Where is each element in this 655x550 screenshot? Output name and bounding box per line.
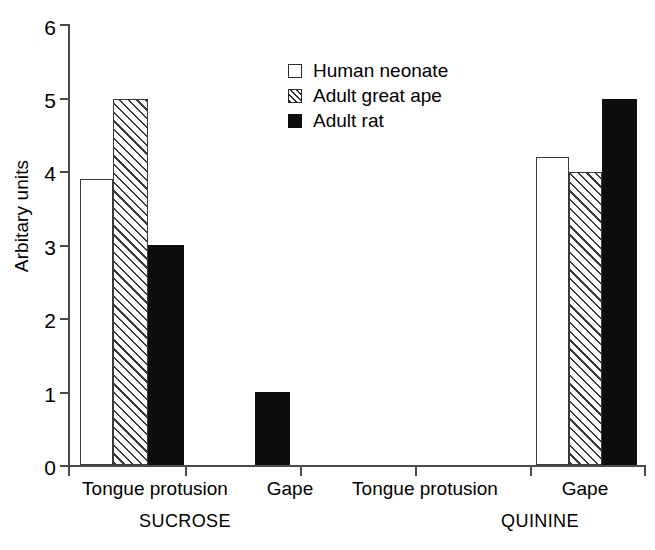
white-square-icon: [288, 64, 302, 78]
y-tick-label-3: 3: [30, 237, 56, 258]
legend-item-adult-great-ape: Adult great ape: [288, 83, 448, 108]
y-tick-label-0: 0: [30, 457, 56, 478]
x-tick-mark-4: [530, 467, 532, 476]
x-tick-mark-0: [68, 467, 70, 476]
y-tick-label-2: 2: [30, 310, 56, 331]
bar-sucrose-tongue-adult-rat: [148, 245, 184, 465]
legend-item-adult-rat: Adult rat: [288, 108, 448, 133]
y-tick-label-1: 1: [30, 384, 56, 405]
x-category-label-sucrose-tongue: Tongue protusion: [60, 478, 250, 500]
legend-label-adult-great-ape: Adult great ape: [313, 86, 442, 105]
hatched-square-icon: [288, 89, 302, 103]
black-square-icon: [288, 114, 302, 128]
bar-sucrose-gape-adult-rat: [255, 392, 290, 465]
legend-item-human-neonate: Human neonate: [288, 58, 448, 83]
bar-quinine-gape-human-neonate: [536, 157, 569, 465]
y-tick-label-4: 4: [30, 163, 56, 184]
y-axis-title: Arbitary units: [11, 106, 33, 326]
y-tick-label-5: 5: [30, 90, 56, 111]
x-tick-mark-5: [644, 467, 646, 476]
bar-quinine-gape-adult-great-ape: [569, 172, 602, 465]
bar-sucrose-tongue-human-neonate: [80, 179, 113, 465]
chart-legend: Human neonate Adult great ape Adult rat: [288, 58, 448, 133]
legend-label-human-neonate: Human neonate: [313, 61, 448, 80]
bar-chart: Arbitary units 6 5 4 3 2 1 0 Tongue prot…: [0, 0, 655, 550]
x-category-label-quinine-tongue: Tongue protusion: [330, 478, 520, 500]
x-group-label-quinine: QUININE: [455, 511, 625, 532]
x-tick-mark-2: [300, 467, 302, 476]
legend-label-adult-rat: Adult rat: [313, 111, 384, 130]
x-axis-line: [68, 465, 646, 467]
y-tick-label-6: 6: [30, 17, 56, 38]
x-category-label-quinine-gape: Gape: [530, 478, 640, 500]
x-category-label-sucrose-gape: Gape: [235, 478, 345, 500]
x-group-label-sucrose: SUCROSE: [100, 511, 270, 532]
x-tick-mark-1: [185, 467, 187, 476]
bar-quinine-gape-adult-rat: [602, 99, 637, 465]
y-axis-line: [68, 24, 70, 467]
bar-sucrose-tongue-adult-great-ape: [113, 99, 148, 465]
x-tick-mark-3: [415, 467, 417, 476]
